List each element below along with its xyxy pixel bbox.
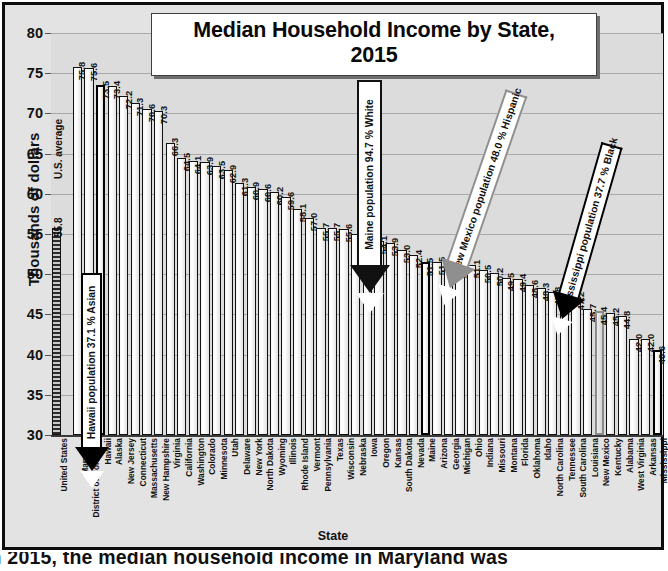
x-tick-label-south-carolina: South Carolina bbox=[579, 438, 587, 498]
x-tick-label-arkansas: Arkansas bbox=[649, 438, 657, 476]
x-tick-label-colorado: Colorado bbox=[208, 438, 216, 475]
bar-new-mexico: 45.4 bbox=[595, 311, 604, 435]
bar-wyoming: 60.2 bbox=[270, 192, 279, 435]
bar-connecticut: 71.3 bbox=[131, 103, 140, 435]
x-tick-label-nevada: Nevada bbox=[417, 438, 425, 468]
x-tick-label-michigan: Michigan bbox=[463, 438, 471, 474]
bar-united-states bbox=[52, 228, 61, 435]
y-tick-label: 75 bbox=[9, 65, 43, 81]
annotation-text-maine: Maine population 94.7 % White bbox=[364, 99, 375, 249]
bar-new-hampshire: 70.3 bbox=[154, 111, 163, 435]
bar-pennsylvania: 55.7 bbox=[316, 228, 325, 435]
bar-california: 64.5 bbox=[177, 158, 186, 435]
x-tick-label-georgia: Georgia bbox=[452, 438, 460, 470]
annotation-arrow-hawaii: Hawaii population 37.1 % Asian bbox=[81, 273, 102, 449]
bar-value-label: 59.6 bbox=[286, 192, 295, 210]
x-tick-label-illinois: Illinois bbox=[289, 438, 297, 465]
bar-new-jersey: 72.2 bbox=[119, 96, 128, 435]
x-tick-label-wisconsin: Wisconsin bbox=[347, 438, 355, 480]
x-tick-label-united-states: United States bbox=[60, 438, 68, 492]
y-tick-label: 30 bbox=[9, 427, 43, 443]
bar-utah: 62.9 bbox=[224, 170, 233, 435]
bar-montana: 49.5 bbox=[502, 278, 511, 435]
x-tick-label-mississippi: Mississippi bbox=[660, 438, 668, 483]
x-tick-label-connecticut: Connecticut bbox=[139, 438, 147, 486]
bar-value-label: 62.9 bbox=[228, 165, 237, 183]
x-tick-label-kentucky: Kentucky bbox=[614, 438, 622, 476]
y-tick-label: 60 bbox=[9, 186, 43, 202]
x-axis-tick-labels: United StatesMarylandDistrict of Columbi… bbox=[51, 438, 663, 534]
bar-value-label: 73.5 bbox=[101, 81, 110, 99]
bar-alaska: 73.4 bbox=[108, 86, 117, 435]
x-tick-label-alabama: Alabama bbox=[626, 438, 634, 473]
x-tick-label-new-york: New York bbox=[255, 438, 263, 475]
x-tick-label-utah: Utah bbox=[231, 438, 239, 457]
bar-washington: 64.1 bbox=[189, 161, 198, 435]
x-tick-label-pennsylvania: Pennsylvania bbox=[324, 438, 332, 492]
x-tick-label-nebraska: Nebraska bbox=[359, 438, 367, 476]
x-tick-label-california: California bbox=[185, 438, 193, 477]
x-tick-label-massachusetts: Massachusetts bbox=[150, 438, 158, 498]
x-tick-label-minnesota: Minnesota bbox=[220, 438, 228, 479]
annotation-shaft: Maine population 94.7 % White bbox=[357, 80, 382, 267]
bar-kentucky: 45.2 bbox=[606, 313, 615, 435]
x-tick-label-indiana: Indiana bbox=[486, 438, 494, 467]
x-tick-label-virginia: Virginia bbox=[173, 438, 181, 469]
y-tick-label: 55 bbox=[9, 226, 43, 242]
x-tick-label-tennessee: Tennessee bbox=[568, 438, 576, 481]
chart-frame: Thousands of dollars 8075706560555045403… bbox=[2, 2, 664, 550]
bar-nevada: 52.4 bbox=[409, 255, 418, 435]
y-tick-label: 35 bbox=[9, 387, 43, 403]
y-tick-label: 40 bbox=[9, 347, 43, 363]
x-tick-label-texas: Texas bbox=[336, 438, 344, 461]
bar-value-label: 66.3 bbox=[170, 138, 179, 156]
bar-south-dakota: 53.0 bbox=[397, 250, 406, 435]
x-tick-label-iowa: Iowa bbox=[370, 438, 378, 457]
us-average-value-label: 55.8 bbox=[53, 217, 64, 236]
bar-virginia: 66.3 bbox=[166, 143, 175, 435]
bar-ohio: 51.1 bbox=[467, 265, 476, 435]
x-tick-label-north-dakota: North Dakota bbox=[266, 438, 274, 491]
bar-vermont: 57.0 bbox=[305, 218, 314, 435]
x-tick-label-north-carolina: North Carolina bbox=[556, 438, 564, 496]
figure-caption-text: In 2015, the median household income in … bbox=[0, 552, 508, 569]
x-tick-label-wyoming: Wyoming bbox=[278, 438, 286, 476]
x-tick-label-arizona: Arizona bbox=[440, 438, 448, 469]
arrow-head-down-icon bbox=[350, 265, 390, 293]
bar-massachusetts: 70.6 bbox=[142, 109, 151, 435]
bar-florida: 49.4 bbox=[513, 279, 522, 435]
y-tick-label: 70 bbox=[9, 105, 43, 121]
y-tick-label: 50 bbox=[9, 266, 43, 282]
annotation-shaft: Hawaii population 37.1 % Asian bbox=[81, 273, 102, 449]
x-tick-label-ohio: Ohio bbox=[475, 438, 483, 457]
bar-rhode-island: 58.1 bbox=[293, 209, 302, 435]
x-axis-title: State bbox=[5, 529, 661, 543]
bar-value-label: 51.5 bbox=[425, 258, 434, 276]
bar-maine: 51.5 bbox=[421, 262, 430, 435]
x-tick-label-washington: Washington bbox=[197, 438, 205, 486]
x-tick-label-missouri: Missouri bbox=[498, 438, 506, 472]
x-tick-label-florida: Florida bbox=[521, 438, 529, 466]
chart-title-line-2: 2015 bbox=[160, 43, 588, 68]
x-tick-label-kansas: Kansas bbox=[394, 438, 402, 468]
bar-mississippi: 40.6 bbox=[653, 350, 662, 435]
y-tick-label: 65 bbox=[9, 146, 43, 162]
x-tick-label-rhode-island: Rhode Island bbox=[301, 438, 309, 491]
bar-value-label: 45.4 bbox=[599, 307, 608, 325]
x-tick-label-oregon: Oregon bbox=[382, 438, 390, 468]
bar-illinois: 59.6 bbox=[281, 197, 290, 435]
figure-caption: In 2015, the median household income in … bbox=[0, 552, 668, 571]
bar-texas: 55.7 bbox=[328, 228, 337, 435]
bar-missouri: 50.2 bbox=[490, 273, 499, 435]
bar-colorado: 63.9 bbox=[200, 162, 209, 435]
x-tick-label-louisiana: Louisiana bbox=[591, 438, 599, 477]
x-tick-label-alaska: Alaska bbox=[115, 438, 123, 465]
y-tick-label: 45 bbox=[9, 306, 43, 322]
x-tick-label-delaware: Delaware bbox=[243, 438, 251, 475]
x-tick-label-vermont: Vermont bbox=[313, 438, 321, 472]
x-tick-label-new-hampshire: New Hampshire bbox=[162, 438, 170, 501]
x-tick-label-new-jersey: New Jersey bbox=[127, 438, 135, 484]
bar-indiana: 50.5 bbox=[479, 270, 488, 435]
chart-figure: Thousands of dollars 8075706560555045403… bbox=[0, 0, 668, 571]
bar-value-label: 75.6 bbox=[89, 63, 98, 81]
